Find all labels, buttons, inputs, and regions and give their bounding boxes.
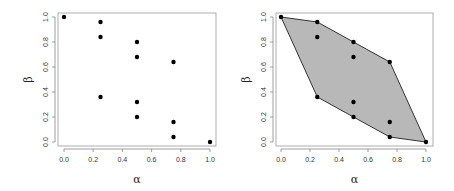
data-point: [424, 140, 428, 144]
plot-frame: [58, 13, 216, 146]
y-tick-label: 0.2: [260, 112, 267, 122]
data-point: [98, 20, 102, 24]
y-tick-label: 0.4: [42, 87, 49, 97]
data-point: [98, 95, 102, 99]
scatter-plot-left: 0.00.20.40.60.81.00.00.20.40.60.81.0αβ: [22, 12, 216, 186]
y-tick-label: 0.8: [42, 37, 49, 47]
data-point: [351, 100, 355, 104]
data-point: [351, 115, 355, 119]
data-point: [208, 140, 212, 144]
y-tick-label: 0.8: [260, 37, 267, 47]
y-tick-label: 0.2: [42, 112, 49, 122]
data-point: [351, 55, 355, 59]
convex-hull-polygon: [281, 17, 426, 142]
y-tick-label: 0.0: [42, 137, 49, 147]
data-point: [351, 40, 355, 44]
data-point: [171, 60, 175, 64]
x-tick-label: 0.4: [118, 156, 128, 163]
data-point: [135, 115, 139, 119]
data-point: [135, 100, 139, 104]
data-point: [171, 120, 175, 124]
x-tick-label: 0.0: [276, 156, 286, 163]
data-point: [135, 55, 139, 59]
y-axis-label: β: [22, 76, 35, 82]
x-tick-label: 0.2: [88, 156, 98, 163]
data-point: [62, 15, 66, 19]
x-tick-label: 0.6: [363, 156, 373, 163]
data-point: [315, 35, 319, 39]
data-point: [135, 40, 139, 44]
x-tick-label: 1.0: [421, 156, 431, 163]
x-axis-label: α: [351, 173, 359, 186]
y-tick-label: 0.0: [260, 137, 267, 147]
data-point: [98, 35, 102, 39]
y-tick-label: 1.0: [42, 12, 49, 22]
data-point: [315, 95, 319, 99]
y-tick-label: 0.4: [260, 87, 267, 97]
hull-plot-right: 0.00.20.40.60.81.00.00.20.40.60.81.0αβ: [240, 12, 433, 186]
figure-canvas: 0.00.20.40.60.81.00.00.20.40.60.81.0αβ 0…: [0, 0, 454, 191]
x-tick-label: 0.4: [334, 156, 344, 163]
x-tick-label: 1.0: [205, 156, 215, 163]
data-point: [388, 135, 392, 139]
x-tick-label: 0.0: [59, 156, 69, 163]
x-tick-label: 0.8: [392, 156, 402, 163]
y-tick-label: 0.6: [260, 62, 267, 72]
data-point: [315, 20, 319, 24]
x-axis-label: α: [133, 173, 141, 186]
x-tick-label: 0.2: [305, 156, 315, 163]
x-tick-label: 0.8: [176, 156, 186, 163]
data-point: [171, 135, 175, 139]
y-axis-label: β: [240, 76, 253, 82]
data-point: [388, 60, 392, 64]
data-point: [388, 120, 392, 124]
x-tick-label: 0.6: [147, 156, 157, 163]
y-tick-label: 0.6: [42, 62, 49, 72]
data-point: [279, 15, 283, 19]
y-tick-label: 1.0: [260, 12, 267, 22]
